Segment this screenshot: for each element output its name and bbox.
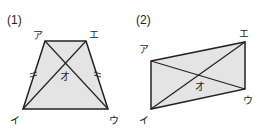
intersection-label: オ xyxy=(60,71,70,82)
figure-2: (2) ア エ イ ウ オ xyxy=(136,13,253,126)
figure-1: (1) ア エ イ ウ オ xyxy=(7,13,119,126)
figure-2-number: (2) xyxy=(136,13,151,27)
intersection-label: オ xyxy=(195,81,205,92)
vertex-label-e: エ xyxy=(89,29,99,40)
vertex-label-i: イ xyxy=(139,115,149,126)
figure-1-number: (1) xyxy=(7,13,22,27)
vertex-label-a: ア xyxy=(33,30,43,41)
vertex-label-u: ウ xyxy=(109,115,119,126)
vertex-label-e: エ xyxy=(239,28,249,39)
vertex-label-u: ウ xyxy=(243,95,253,106)
vertex-label-i: イ xyxy=(10,115,20,126)
geometry-figures: (1) ア エ イ ウ オ (2) ア エ イ ウ オ xyxy=(0,0,259,133)
vertex-label-a: ア xyxy=(139,44,149,55)
